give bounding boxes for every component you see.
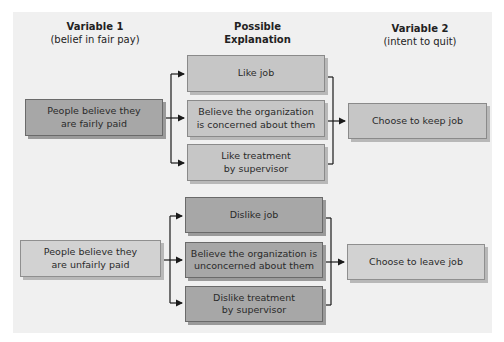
source-unfairly-paid-line1: People believe they (44, 246, 137, 259)
outcome-leave-job: Choose to leave job (347, 244, 485, 280)
explanation-like-job: Like job (187, 55, 325, 92)
source-fairly-paid-line2: are fairly paid (47, 118, 140, 131)
outcome-keep-job: Choose to keep job (348, 103, 487, 139)
source-fairly-paid: People believe they are fairly paid (25, 99, 163, 136)
explanation-org-concerned: Believe the organization is concerned ab… (187, 100, 325, 137)
source-unfairly-paid: People believe they are unfairly paid (20, 240, 161, 277)
outcome-keep-job-label: Choose to keep job (372, 115, 463, 128)
explanation-org-concerned-line1: Believe the organization (197, 106, 316, 119)
explanation-like-supervisor-line2: by supervisor (221, 163, 291, 176)
explanation-like-job-label: Like job (238, 67, 274, 80)
explanation-dislike-supervisor-line1: Dislike treatment (213, 292, 295, 305)
explanation-dislike-job-label: Dislike job (230, 209, 279, 222)
explanation-org-unconcerned-line1: Believe the organization is (191, 248, 317, 261)
source-unfairly-paid-line2: are unfairly paid (44, 259, 137, 272)
explanation-like-supervisor-line1: Like treatment (221, 150, 291, 163)
outcome-leave-job-label: Choose to leave job (369, 256, 463, 269)
explanation-like-supervisor: Like treatment by supervisor (187, 144, 325, 181)
explanation-dislike-supervisor: Dislike treatment by supervisor (185, 286, 323, 322)
explanation-org-concerned-line2: is concerned about them (197, 119, 316, 132)
explanation-dislike-supervisor-line2: by supervisor (213, 304, 295, 317)
source-fairly-paid-line1: People believe they (47, 105, 140, 118)
explanation-org-unconcerned: Believe the organization is unconcerned … (185, 242, 323, 278)
explanation-dislike-job: Dislike job (185, 197, 323, 233)
explanation-org-unconcerned-line2: unconcerned about them (191, 260, 317, 273)
